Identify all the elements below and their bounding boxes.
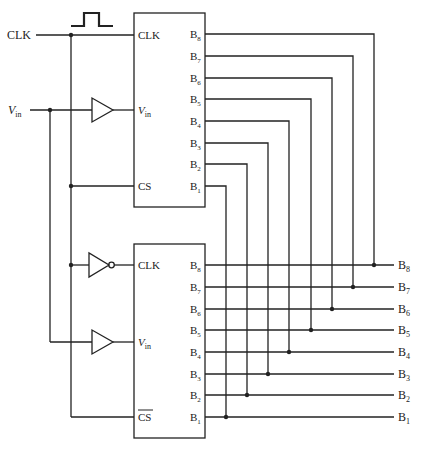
svg-text:B7: B7 — [190, 281, 201, 296]
svg-text:B8: B8 — [398, 258, 410, 274]
svg-text:B5: B5 — [190, 93, 201, 108]
top-vin-buffer-icon — [92, 98, 113, 122]
svg-text:B3: B3 — [190, 137, 201, 152]
svg-text:B7: B7 — [398, 280, 410, 296]
svg-text:B2: B2 — [190, 158, 201, 173]
bottom-adc-output-labels: B8 B7 B6 B5 B4 B3 B2 B1 — [190, 259, 201, 426]
top-adc-cs-pin-label: CS — [138, 180, 151, 192]
svg-text:B3: B3 — [190, 368, 201, 383]
junction-dots — [48, 33, 376, 419]
svg-text:B8: B8 — [190, 28, 201, 43]
svg-text:B6: B6 — [190, 303, 201, 318]
top-adc-vin-pin-label: Vin — [138, 104, 151, 119]
output-bus-wires — [205, 265, 394, 417]
svg-text:B1: B1 — [398, 410, 410, 426]
svg-text:B4: B4 — [190, 115, 201, 130]
svg-text:B1: B1 — [190, 411, 201, 426]
svg-text:B6: B6 — [190, 72, 201, 87]
svg-text:B5: B5 — [190, 324, 201, 339]
svg-text:B2: B2 — [398, 388, 410, 404]
clk-inverter-icon — [89, 253, 109, 277]
svg-text:B7: B7 — [190, 50, 201, 65]
bottom-adc-vin-pin-label: Vin — [138, 336, 151, 351]
vin-input-label: Vin — [8, 103, 22, 119]
svg-text:B2: B2 — [190, 389, 201, 404]
svg-text:B6: B6 — [398, 302, 410, 318]
adc-circuit-diagram: CLK Vin CLK Vin CS CLK Vin CS B8 B7 B6 B… — [0, 0, 423, 449]
bottom-adc-clk-pin-label: CLK — [138, 259, 160, 271]
svg-text:B1: B1 — [190, 180, 201, 195]
bus-output-labels: B8 B7 B6 B5 B4 B3 B2 B1 — [398, 258, 410, 426]
svg-text:B4: B4 — [398, 345, 410, 361]
top-adc-output-labels: B8 B7 B6 B5 B4 B3 B2 B1 — [190, 28, 201, 195]
svg-text:B5: B5 — [398, 323, 410, 339]
top-adc-output-wires — [205, 34, 374, 417]
clock-pulse-waveform — [71, 13, 113, 26]
bottom-adc-csbar-pin-label: CS — [138, 411, 151, 423]
clk-input-label: CLK — [7, 28, 31, 42]
bottom-vin-buffer-icon — [92, 330, 113, 354]
svg-text:B3: B3 — [398, 367, 410, 383]
svg-text:B8: B8 — [190, 259, 201, 274]
top-adc-clk-pin-label: CLK — [138, 29, 160, 41]
svg-text:B4: B4 — [190, 346, 201, 361]
